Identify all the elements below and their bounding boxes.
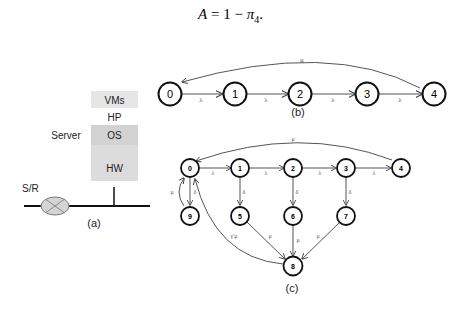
state-label-1: 1 [232, 88, 238, 100]
state-label-4: 4 [431, 88, 437, 100]
state-label-6: 6 [291, 213, 295, 220]
edge-label-8-0: γ'μ [230, 233, 238, 239]
edge-label-2-3: λ [319, 170, 322, 176]
layer-vms-label: VMs [105, 95, 125, 106]
state-label-7: 7 [344, 213, 348, 220]
edge-label-3-4: λ [373, 170, 376, 176]
state-label-8: 8 [291, 263, 295, 270]
state-label-2: 2 [291, 165, 295, 172]
layer-os-label: OS [107, 130, 122, 141]
state-label-2: 2 [297, 88, 303, 100]
edge-label-2-6: δ [296, 189, 299, 195]
panel-c-markov-chain: μ λ λ λ λ δ μ δ δ δ μ μ μ γ'μ 0 1 [170, 136, 410, 294]
panel-b-markov-chain: μ λ λ λ λ 0 1 2 3 4 (b) [159, 56, 446, 118]
edge-7-to-8 [302, 222, 340, 259]
state-label-9: 9 [188, 213, 192, 220]
edge-label-3-4: λ [398, 96, 402, 104]
edge-label-1-5: δ [243, 189, 246, 195]
server-label: Server [51, 130, 81, 141]
state-label-5: 5 [238, 213, 242, 220]
edge-label-7-8: μ [316, 233, 319, 239]
state-label-0: 0 [188, 165, 192, 172]
panel-b-caption: (b) [291, 106, 304, 118]
diagram-canvas: VMs HP OS HW Server S/R (a) μ λ λ λ λ [0, 0, 461, 313]
return-rate-label: μ [300, 56, 304, 64]
router-icon [41, 197, 69, 215]
edge-label-9-0: μ [170, 189, 173, 195]
panel-a-caption: (a) [87, 217, 100, 229]
edge-label-0-1: λ [212, 170, 215, 176]
edge-label-6-8: μ [296, 237, 299, 243]
layer-hp-label: HP [108, 112, 122, 123]
edge-label-0-9: δ [194, 189, 197, 195]
state-label-3: 3 [364, 88, 370, 100]
panel-c-caption: (c) [286, 282, 299, 294]
edge-9-to-0 [179, 178, 184, 206]
edge-5-to-8 [247, 222, 285, 259]
state-label-3: 3 [344, 165, 348, 172]
edge-label-0-1: λ [199, 96, 203, 104]
edge-label-1-2: λ [265, 170, 268, 176]
panel-a-server-diagram: VMs HP OS HW Server S/R (a) [22, 91, 150, 229]
state-label-4: 4 [399, 165, 403, 172]
layer-hw-label: HW [106, 163, 123, 174]
edge-label-1-2: λ [264, 96, 268, 104]
return-rate-label: μ [291, 136, 294, 142]
edge-label-5-8: μ [268, 233, 271, 239]
router-label: S/R [22, 183, 39, 194]
edge-label-2-3: λ [331, 96, 335, 104]
edge-label-3-7: δ [349, 189, 352, 195]
state-label-0: 0 [167, 88, 173, 100]
state-label-1: 1 [238, 165, 242, 172]
